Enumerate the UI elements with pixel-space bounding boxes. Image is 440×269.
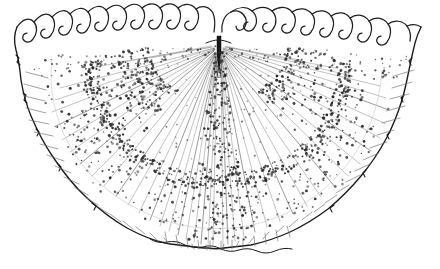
figure-container: [0, 0, 440, 269]
shell-illustration: [0, 0, 440, 269]
